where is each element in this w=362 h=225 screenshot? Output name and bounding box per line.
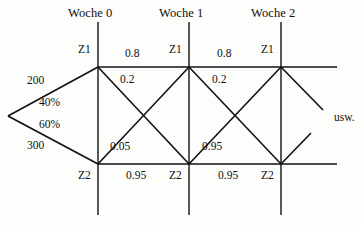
prob-stay-top-1: 0.8: [217, 48, 231, 60]
prob-stay-top-0: 0.8: [125, 48, 139, 60]
state-label-bottom-2: Z2: [261, 170, 274, 182]
state-label-top-0: Z1: [78, 44, 91, 56]
state-label-top-1: Z1: [169, 44, 182, 56]
week-title-0: Woche 0: [68, 7, 112, 20]
prob-bottom-to-top-0: 0.05: [110, 141, 130, 153]
prob-top-to-bottom-1: 0.2: [212, 74, 226, 86]
prob-top-to-bottom-0: 0.2: [120, 74, 134, 86]
input-branch-top: [8, 67, 98, 116]
week-title-2: Woche 2: [251, 7, 295, 20]
prob-stay-bottom-0: 0.95: [126, 170, 146, 182]
diagram-lines: [0, 0, 362, 225]
prob-bottom-to-top-1: 0.95: [202, 141, 222, 153]
week-title-1: Woche 1: [159, 7, 203, 20]
input-count-top: 200: [27, 75, 44, 87]
input-share-top: 40%: [39, 97, 60, 109]
trellis-diagram: Woche 0 Woche 1 Woche 2 Z1 Z1 Z1 Z2 Z2 Z…: [0, 0, 362, 225]
continuation-label: usw.: [334, 112, 355, 124]
continuation-stub-bottom-to-top: [281, 133, 311, 164]
input-count-bottom: 300: [27, 140, 44, 152]
prob-stay-bottom-1: 0.95: [218, 170, 238, 182]
continuation-stub-top-to-bottom: [281, 67, 323, 110]
state-label-bottom-0: Z2: [78, 170, 91, 182]
state-label-top-2: Z1: [261, 44, 274, 56]
state-label-bottom-1: Z2: [169, 170, 182, 182]
input-share-bottom: 60%: [39, 119, 60, 131]
